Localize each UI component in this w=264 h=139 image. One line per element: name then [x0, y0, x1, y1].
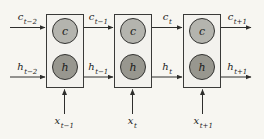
label-h-t-plus-1: ht+1 [227, 62, 247, 76]
rnn-cell-box-3: c h [183, 14, 221, 88]
label-x-t: xt [128, 116, 136, 130]
cell-state-letter: c [62, 25, 68, 38]
hidden-state-letter: h [61, 61, 68, 74]
rnn-cell-box-2: c h [114, 14, 152, 88]
label-h-t-minus-2: ht−2 [17, 62, 37, 76]
cell-state-circle: c [52, 18, 78, 44]
cell-state-letter: c [130, 25, 136, 38]
label-x-t-plus-1: xt+1 [194, 116, 213, 130]
hidden-state-circle: h [189, 54, 215, 80]
label-h-t: ht [162, 62, 171, 76]
label-h-t-minus-1: ht−1 [88, 62, 108, 76]
label-c-t-plus-1: ct+1 [228, 12, 247, 26]
hidden-state-circle: h [120, 54, 146, 80]
hidden-state-letter: h [198, 61, 205, 74]
rnn-unrolled-diagram: c h c h c h ct−2 ct−1 ct ct+1 ht−2 ht−1 … [0, 0, 264, 139]
cell-state-circle: c [120, 18, 146, 44]
rnn-cell-box-1: c h [46, 14, 84, 88]
cell-state-letter: c [199, 25, 205, 38]
hidden-state-circle: h [52, 54, 78, 80]
label-c-t-minus-1: ct−1 [89, 12, 108, 26]
label-c-t-minus-2: ct−2 [18, 12, 37, 26]
hidden-state-letter: h [129, 61, 136, 74]
label-x-t-minus-1: xt−1 [55, 116, 74, 130]
label-c-t: ct [163, 12, 171, 26]
cell-state-circle: c [189, 18, 215, 44]
